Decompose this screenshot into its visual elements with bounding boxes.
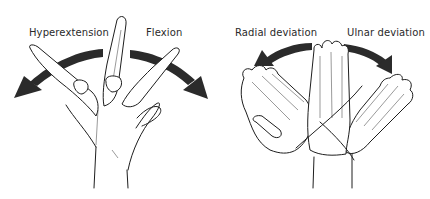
flexion-extension-figure (14, 17, 208, 188)
right-forearm-outline (313, 153, 352, 188)
center-neutral-hand (308, 41, 350, 156)
radial-deviation-label: Radial deviation (235, 27, 317, 38)
ulnar-deviation-label: Ulnar deviation (347, 27, 425, 38)
hyperextension-label: Hyperextension (29, 27, 109, 38)
forearm-outline (94, 147, 128, 188)
palm-outline (66, 103, 159, 170)
radial-deviated-hand (241, 66, 312, 154)
thumb-outline (137, 106, 161, 126)
wrist-movements-diagram: Hyperextension Flexion Radial deviation … (0, 0, 430, 199)
ulnar-arrow-arc-icon (344, 44, 386, 66)
radial-ulnar-figure (241, 41, 413, 188)
knuckle-center (106, 76, 122, 92)
wrist-crease (112, 150, 118, 158)
radial-arrow-arc-icon (266, 43, 312, 64)
ulnar-deviated-hand (346, 74, 413, 153)
flexion-label: Flexion (146, 27, 182, 38)
